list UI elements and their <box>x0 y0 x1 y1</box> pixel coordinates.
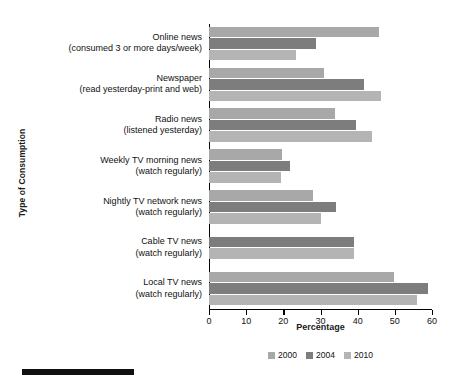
category-label-line: Cable TV news <box>4 236 202 247</box>
legend-item-2000[interactable]: 2000 <box>268 350 297 360</box>
bar-2010 <box>209 213 321 224</box>
category-label-line: Nightly TV network news <box>4 196 202 207</box>
bar-2004 <box>209 237 354 248</box>
bar-2000 <box>209 190 313 201</box>
bar-2004 <box>209 202 336 213</box>
bar-2004 <box>209 38 316 49</box>
legend-swatch-icon <box>306 352 313 359</box>
legend-item-2004[interactable]: 2004 <box>306 350 335 360</box>
category-label-line: Newspaper <box>4 73 202 84</box>
category-label-line: (watch regularly) <box>4 166 202 177</box>
category-label: Online news(consumed 3 or more days/week… <box>4 32 202 55</box>
bar-2000 <box>209 108 335 119</box>
bar-group: Local TV news(watch regularly) <box>209 269 432 310</box>
bar-2010 <box>209 131 372 142</box>
category-label: Nightly TV network news(watch regularly) <box>4 196 202 219</box>
category-label-line: Radio news <box>4 114 202 125</box>
bar-2004 <box>209 161 290 172</box>
category-label: Weekly TV morning news(watch regularly) <box>4 155 202 178</box>
category-label-line: (watch regularly) <box>4 289 202 300</box>
x-tick-mark <box>246 310 247 315</box>
category-label: Radio news(listened yesterday) <box>4 114 202 137</box>
category-label-line: (read yesterday-print and web) <box>4 84 202 95</box>
category-label-line: Local TV news <box>4 277 202 288</box>
x-tick-mark <box>283 310 284 315</box>
bar-2000 <box>209 272 394 283</box>
category-label: Local TV news(watch regularly) <box>4 277 202 300</box>
category-label-line: (watch regularly) <box>4 248 202 259</box>
bar-2000 <box>209 27 379 38</box>
bar-2010 <box>209 295 417 306</box>
plot-area: Online news(consumed 3 or more days/week… <box>209 24 432 310</box>
chart-legend: 200020042010 <box>209 350 432 360</box>
bar-2004 <box>209 79 364 90</box>
legend-label: 2010 <box>354 350 373 360</box>
category-label-line: (consumed 3 or more days/week) <box>4 43 202 54</box>
x-tick-mark <box>395 310 396 315</box>
bottom-rule <box>22 369 134 375</box>
x-tick-mark <box>358 310 359 315</box>
bar-2010 <box>209 172 281 183</box>
bar-group: Newspaper(read yesterday-print and web) <box>209 65 432 106</box>
bar-2010 <box>209 91 381 102</box>
legend-swatch-icon <box>268 352 275 359</box>
category-label: Cable TV news(watch regularly) <box>4 236 202 259</box>
bar-2010 <box>209 50 296 61</box>
bar-2000 <box>209 68 324 79</box>
bar-group: Online news(consumed 3 or more days/week… <box>209 24 432 65</box>
bar-2004 <box>209 283 428 294</box>
bar-2010 <box>209 248 354 259</box>
x-tick-mark <box>321 310 322 315</box>
x-tick-mark <box>209 310 210 315</box>
category-label-line: (watch regularly) <box>4 207 202 218</box>
bar-2000 <box>209 149 282 160</box>
bar-group: Weekly TV morning news(watch regularly) <box>209 147 432 188</box>
bar-2004 <box>209 120 356 131</box>
x-tick-mark <box>432 310 433 315</box>
legend-label: 2000 <box>278 350 297 360</box>
category-label-line: (listened yesterday) <box>4 125 202 136</box>
x-axis-title: Percentage <box>209 322 432 332</box>
category-label-line: Online news <box>4 32 202 43</box>
category-label-line: Weekly TV morning news <box>4 155 202 166</box>
legend-item-2010[interactable]: 2010 <box>344 350 373 360</box>
legend-label: 2004 <box>316 350 335 360</box>
legend-swatch-icon <box>344 352 351 359</box>
bar-group: Nightly TV network news(watch regularly) <box>209 187 432 228</box>
bar-group: Radio news(listened yesterday) <box>209 106 432 147</box>
bar-chart: Type of Consumption Online news(consumed… <box>0 0 456 385</box>
category-label: Newspaper(read yesterday-print and web) <box>4 73 202 96</box>
bar-group: Cable TV news(watch regularly) <box>209 228 432 269</box>
